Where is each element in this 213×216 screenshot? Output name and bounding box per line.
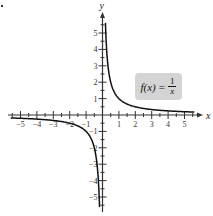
- y-axis-arrow-icon: [100, 12, 105, 18]
- x-axis-arrow-icon: [197, 113, 203, 118]
- x-axis-label: x: [205, 110, 211, 121]
- x-tick-label: 2: [133, 120, 137, 129]
- y-tick-label: −1: [89, 127, 98, 136]
- hyperbola-graph: xy −5−4−3−2−112345−5−4−3−2−112345: [0, 0, 213, 216]
- y-tick-label: 1: [94, 95, 98, 104]
- fraction: 1 x: [168, 77, 177, 96]
- x-tick-label: 4: [166, 120, 170, 129]
- y-tick-label: 5: [94, 29, 98, 38]
- corner-dot: [1, 5, 3, 7]
- function-lhs: f(x): [141, 81, 156, 93]
- equals-sign: =: [159, 81, 165, 93]
- y-tick-label: −5: [89, 193, 98, 202]
- axes: xy: [8, 0, 211, 212]
- x-tick-label: −4: [33, 120, 42, 129]
- y-axis-label: y: [99, 0, 105, 11]
- x-tick-label: −5: [16, 120, 25, 129]
- y-tick-label: 4: [94, 45, 98, 54]
- curve-negative-branch: [11, 118, 100, 207]
- x-tick-label: 1: [117, 120, 121, 129]
- function-label-box: f(x) = 1 x: [135, 73, 182, 100]
- x-tick-label: 3: [150, 120, 154, 129]
- x-tick-label: 5: [183, 120, 187, 129]
- y-tick-label: −4: [89, 177, 98, 186]
- y-tick-label: 2: [94, 78, 98, 87]
- fraction-denominator: x: [170, 87, 174, 96]
- y-tick-label: 3: [94, 62, 98, 71]
